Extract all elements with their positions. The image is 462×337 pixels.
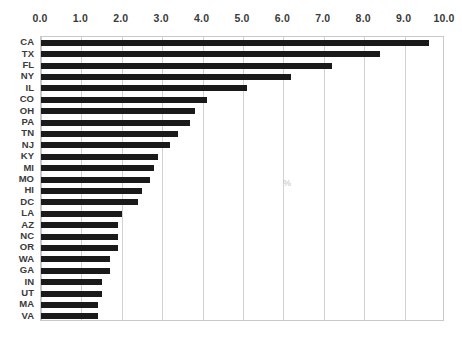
bar [41, 188, 142, 194]
category-label-oh: OH [20, 106, 34, 116]
x-tick-label: 8.0 [356, 12, 371, 24]
x-tick-label: 10.0 [433, 12, 454, 24]
percent-unit-label: % [283, 178, 291, 188]
x-tick-label: 7.0 [315, 12, 330, 24]
category-label-or: OR [20, 242, 34, 252]
bar [41, 234, 118, 240]
category-label-tn: TN [21, 128, 34, 138]
category-label-nc: NC [20, 231, 34, 241]
bar [41, 302, 98, 308]
x-tick-label: 4.0 [194, 12, 209, 24]
bar [41, 211, 122, 217]
bar [41, 165, 154, 171]
plot-area [40, 36, 444, 321]
y-axis-category-labels: CATXFLNYILCOOHPATNNJKYMIMOHIDCLAAZNCORWA… [0, 36, 37, 321]
category-label-fl: FL [22, 60, 34, 70]
category-label-mo: MO [19, 174, 34, 184]
category-label-mi: MI [23, 163, 34, 173]
bar [41, 108, 195, 114]
x-tick-label: 6.0 [275, 12, 290, 24]
category-label-az: AZ [21, 220, 34, 230]
category-label-il: IL [26, 83, 34, 93]
x-tick-label: 9.0 [396, 12, 411, 24]
x-tick-label: 0.0 [32, 12, 47, 24]
bar [41, 154, 158, 160]
category-label-va: VA [22, 311, 35, 321]
x-tick-label: 1.0 [73, 12, 88, 24]
bar [41, 85, 247, 91]
bar [41, 268, 110, 274]
bar [41, 74, 291, 80]
bar [41, 177, 150, 183]
bar [41, 131, 178, 137]
category-label-ca: CA [20, 37, 34, 47]
bar [41, 120, 190, 126]
x-axis-tick-labels: 0.01.02.03.04.05.06.07.08.09.010.0 [0, 12, 462, 30]
category-label-tx: TX [22, 49, 34, 59]
x-tick-label: 3.0 [154, 12, 169, 24]
category-label-dc: DC [20, 197, 34, 207]
category-label-la: LA [21, 208, 34, 218]
category-label-ma: MA [19, 299, 34, 309]
bar-chart-figure: 0.01.02.03.04.05.06.07.08.09.010.0 CATXF… [0, 0, 462, 337]
bar [41, 97, 207, 103]
clipped-caption [8, 328, 158, 334]
category-label-co: CO [20, 94, 34, 104]
x-tick-label: 5.0 [234, 12, 249, 24]
bar [41, 256, 110, 262]
category-label-pa: PA [22, 117, 35, 127]
bars-layer [41, 37, 443, 320]
bar [41, 199, 138, 205]
category-label-hi: HI [25, 185, 35, 195]
bar [41, 142, 170, 148]
bar [41, 40, 429, 46]
bar [41, 245, 118, 251]
category-label-ky: KY [21, 151, 34, 161]
x-tick-label: 2.0 [113, 12, 128, 24]
category-label-in: IN [25, 277, 35, 287]
category-label-ut: UT [21, 288, 34, 298]
category-label-wa: WA [19, 254, 34, 264]
bar [41, 63, 332, 69]
bar [41, 51, 380, 57]
bar [41, 313, 98, 319]
category-label-nj: NJ [22, 140, 34, 150]
bar [41, 279, 102, 285]
bar [41, 291, 102, 297]
category-label-ga: GA [20, 265, 34, 275]
bar [41, 222, 118, 228]
category-label-ny: NY [21, 71, 34, 81]
